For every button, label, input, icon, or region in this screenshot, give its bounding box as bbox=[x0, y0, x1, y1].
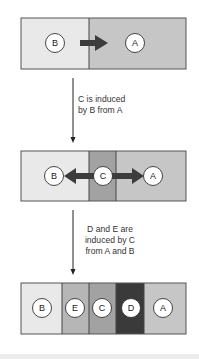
cell-label-b: B bbox=[45, 167, 64, 186]
cell-label-c: C bbox=[94, 167, 113, 186]
cell-label-b: B bbox=[33, 299, 52, 318]
cell-label-a: A bbox=[154, 299, 173, 318]
down-arrow-icon bbox=[71, 78, 76, 143]
induction-caption-2: D and E are induced by C from A and B bbox=[74, 224, 146, 257]
caption-line: induced by C bbox=[74, 235, 146, 246]
induction-caption-1: C is induced by B from A bbox=[78, 94, 125, 116]
cell-label-c: C bbox=[93, 299, 112, 318]
caption-line: by B from A bbox=[78, 105, 125, 116]
cell-label-a: A bbox=[144, 167, 163, 186]
cell-label-d: D bbox=[122, 299, 141, 318]
caption-line: C is induced bbox=[78, 94, 125, 105]
caption-line: from A and B bbox=[74, 246, 146, 257]
caption-line: D and E are bbox=[74, 224, 146, 235]
cell-label-b: B bbox=[46, 34, 65, 53]
cell-label-a: A bbox=[126, 34, 145, 53]
cell-label-e: E bbox=[66, 299, 85, 318]
bottom-band bbox=[0, 354, 199, 359]
